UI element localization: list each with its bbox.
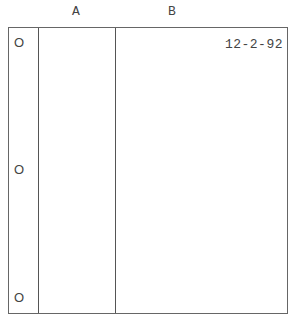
punch-hole-bottom: O xyxy=(14,290,24,305)
punch-hole-middle: O xyxy=(14,162,24,177)
column-divider xyxy=(115,28,116,313)
punch-hole-top: O xyxy=(14,35,24,50)
column-b-header: B xyxy=(168,4,176,19)
margin-divider xyxy=(38,28,39,313)
column-a-header: A xyxy=(72,4,80,19)
date-entry: 12-2-92 xyxy=(225,37,283,52)
ledger-sheet: O O O 12-2-92 xyxy=(8,27,288,314)
